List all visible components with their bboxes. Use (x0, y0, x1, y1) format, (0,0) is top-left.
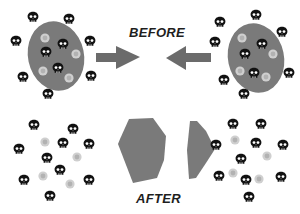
skull-icon (14, 144, 25, 154)
circle-icon (228, 168, 237, 177)
skull-icon (68, 124, 79, 134)
cell-body-left (21, 16, 90, 96)
skull-icon (241, 175, 252, 185)
circle-icon (38, 66, 47, 75)
circle-icon (40, 137, 49, 146)
arrow-right-icon (96, 46, 140, 69)
skull-icon (219, 75, 230, 85)
skull-icon (11, 36, 22, 46)
skull-icon (210, 37, 221, 47)
skull-icon (251, 138, 262, 148)
after-label: AFTER (136, 192, 181, 205)
skull-icon (29, 120, 40, 130)
skull-icon (28, 12, 39, 22)
circle-icon (71, 49, 80, 58)
skull-icon (85, 36, 96, 46)
skull-icon (236, 154, 247, 164)
circle-icon (254, 174, 263, 183)
skull-icon (42, 153, 53, 163)
skull-icon (239, 89, 250, 99)
skull-icon (277, 27, 288, 37)
skull-icon (84, 139, 95, 149)
skull-icon (215, 17, 226, 27)
skull-icon (45, 191, 56, 201)
circle-icon (235, 66, 244, 75)
circle-icon (40, 33, 49, 42)
circle-icon (237, 33, 246, 42)
circle-icon (65, 179, 74, 188)
circle-icon (268, 49, 277, 58)
circle-icon (72, 152, 81, 161)
skull-icon (43, 89, 54, 99)
skull-icon (228, 119, 239, 129)
skull-icon (251, 10, 262, 20)
before-label: BEFORE (129, 26, 185, 39)
skull-icon (18, 72, 29, 82)
circle-icon (38, 171, 47, 180)
arrow-left-icon (166, 46, 211, 70)
skull-icon (86, 71, 97, 81)
circle-icon (262, 151, 271, 160)
skull-icon (64, 14, 75, 24)
skull-icon (19, 175, 30, 185)
skull-icon (214, 171, 225, 181)
circle-icon (230, 135, 239, 144)
cell-fragment-1 (118, 118, 166, 183)
skull-icon (256, 119, 267, 129)
skull-icon (278, 140, 289, 150)
arrows (96, 46, 211, 70)
skull-icon (276, 172, 287, 182)
skull-icon (58, 138, 69, 148)
cell-fragment-2 (187, 121, 215, 179)
skull-icon (244, 192, 255, 202)
skull-icon (84, 175, 95, 185)
circle-icon (64, 73, 73, 82)
skull-icon (55, 165, 66, 175)
skull-icon (284, 68, 295, 78)
circle-icon (261, 72, 270, 81)
